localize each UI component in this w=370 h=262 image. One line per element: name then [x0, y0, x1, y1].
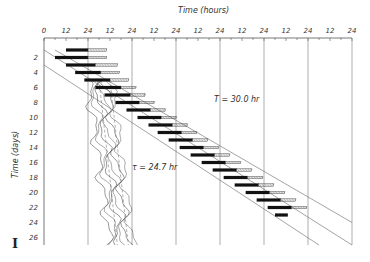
svg-text:16: 16 — [29, 159, 38, 167]
activity-bars — [55, 48, 307, 216]
svg-text:12: 12 — [106, 27, 115, 35]
svg-text:10: 10 — [29, 114, 38, 122]
grid-lines — [88, 38, 352, 245]
x-axis-title: Time (hours) — [178, 6, 229, 15]
svg-text:22: 22 — [29, 204, 38, 212]
actogram-chart: 0122412241224122412241224122424681012141… — [0, 0, 370, 262]
panel-label: I — [12, 236, 18, 251]
annotation-T: T = 30.0 hr — [214, 95, 259, 104]
svg-text:12: 12 — [62, 27, 71, 35]
svg-text:12: 12 — [238, 27, 247, 35]
svg-text:24: 24 — [84, 27, 93, 35]
svg-text:24: 24 — [29, 219, 38, 227]
svg-text:4: 4 — [34, 69, 38, 77]
svg-text:18: 18 — [29, 174, 38, 182]
svg-text:12: 12 — [326, 27, 335, 35]
annotation-tau: τ = 24.7 hr — [132, 163, 177, 172]
svg-text:20: 20 — [29, 189, 38, 197]
free-running-traces — [86, 80, 138, 245]
svg-text:24: 24 — [304, 27, 313, 35]
svg-text:2: 2 — [34, 54, 39, 62]
svg-text:8: 8 — [34, 99, 39, 107]
svg-text:26: 26 — [29, 234, 38, 242]
svg-text:0: 0 — [42, 27, 47, 35]
y-axis-title: Time (days) — [11, 131, 20, 179]
svg-text:12: 12 — [194, 27, 203, 35]
svg-text:24: 24 — [348, 27, 357, 35]
svg-text:24: 24 — [216, 27, 225, 35]
tick-labels: 0122412241224122412241224122424681012141… — [29, 27, 356, 242]
svg-text:6: 6 — [34, 84, 39, 92]
svg-text:12: 12 — [29, 129, 38, 137]
svg-text:24: 24 — [172, 27, 181, 35]
svg-text:24: 24 — [260, 27, 269, 35]
svg-text:24: 24 — [128, 27, 137, 35]
svg-text:12: 12 — [282, 27, 291, 35]
svg-text:14: 14 — [29, 144, 38, 152]
svg-text:12: 12 — [150, 27, 159, 35]
